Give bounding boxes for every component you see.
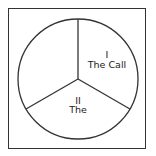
section-title: The Call bbox=[82, 60, 132, 70]
section-label-2: II The bbox=[48, 96, 108, 114]
pie-diagram bbox=[0, 0, 156, 156]
section-label-1: I The Call bbox=[82, 50, 132, 69]
section-title: The bbox=[48, 105, 108, 115]
